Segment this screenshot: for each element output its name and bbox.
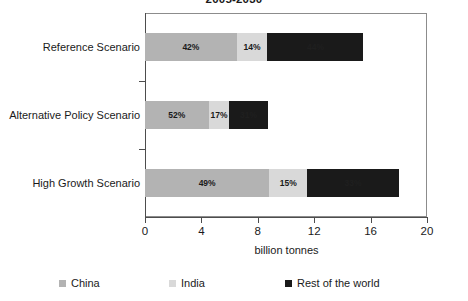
bar-segment-china[interactable]: 52% [145, 101, 209, 129]
x-axis-tick-label: 4 [198, 225, 204, 237]
bar-segment-china[interactable]: 49% [145, 169, 269, 197]
x-axis-tick-label: 0 [142, 225, 148, 237]
legend-label: India [181, 277, 205, 289]
x-axis-title: billion tonnes [145, 244, 428, 256]
legend-item-china[interactable]: China [59, 277, 169, 289]
x-axis-tick-label: 8 [255, 225, 261, 237]
bar-segment-rest-of-the-world[interactable]: 33% [307, 169, 398, 197]
legend-item-india[interactable]: India [169, 277, 285, 289]
bar-segment-india[interactable]: 17% [209, 101, 230, 129]
y-axis-tick [139, 81, 145, 82]
bar-segment-china[interactable]: 42% [145, 33, 237, 61]
x-axis-tick-label: 12 [308, 225, 321, 237]
legend-label: China [71, 277, 100, 289]
bar-segment-rest-of-the-world[interactable]: 31% [229, 101, 267, 129]
stacked-bar-alternative-policy-scenario: 52% 17% 31% [145, 101, 268, 129]
legend: China India Rest of the world [0, 277, 468, 289]
bar-segment-rest-of-the-world[interactable]: 44% [267, 33, 363, 61]
legend-label: Rest of the world [297, 277, 380, 289]
bar-segment-india[interactable]: 14% [237, 33, 268, 61]
bar-segment-india[interactable]: 15% [269, 169, 307, 197]
x-axis-tick [145, 217, 146, 223]
x-axis-tick [371, 217, 372, 223]
legend-swatch-icon [169, 280, 176, 287]
x-axis-tick [314, 217, 315, 223]
category-label-reference-scenario: Reference Scenario [43, 41, 140, 53]
stacked-bar-high-growth-scenario: 49% 15% 33% [145, 169, 399, 197]
legend-swatch-icon [59, 280, 66, 287]
legend-swatch-icon [285, 280, 292, 287]
category-label-alternative-policy-scenario: Alternative Policy Scenario [9, 109, 140, 121]
category-label-high-growth-scenario: High Growth Scenario [32, 177, 140, 189]
x-axis-tick [258, 217, 259, 223]
y-axis-tick [139, 149, 145, 150]
chart-title: 2005-2030 [0, 0, 468, 5]
x-axis-tick-label: 16 [364, 225, 377, 237]
category-axis-line [145, 217, 428, 218]
x-axis-tick [427, 217, 428, 223]
x-axis-tick-label: 20 [421, 225, 434, 237]
legend-item-rest-of-the-world[interactable]: Rest of the world [285, 277, 409, 289]
x-axis-tick [201, 217, 202, 223]
stacked-bar-reference-scenario: 42% 14% 44% [145, 33, 363, 61]
